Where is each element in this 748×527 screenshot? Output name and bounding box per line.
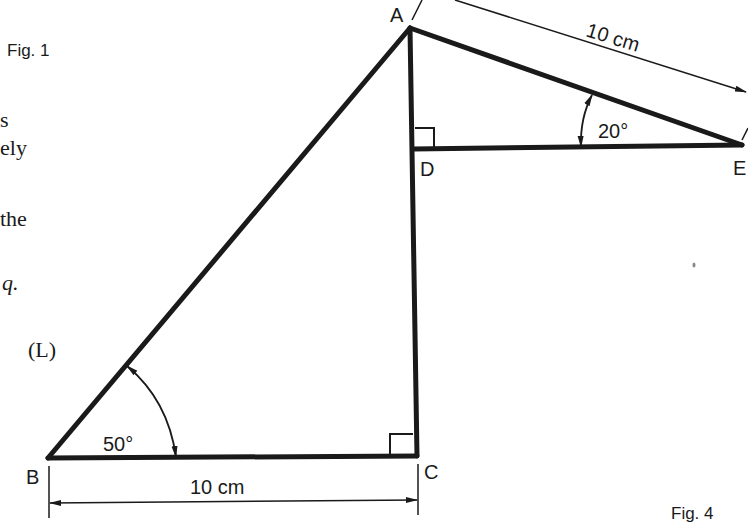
side-ab bbox=[48, 28, 410, 458]
point-label-e: E bbox=[733, 157, 746, 179]
triangle-abc bbox=[48, 28, 417, 458]
fig4-caption: Fig. 4 bbox=[671, 504, 714, 523]
side-ac bbox=[410, 28, 417, 456]
length-label-bc: 10 cm bbox=[190, 476, 244, 498]
side-bc bbox=[48, 456, 417, 458]
label-l: (L) bbox=[28, 337, 56, 362]
margin-fragment: the bbox=[0, 206, 27, 231]
margin-fragment: q. bbox=[2, 270, 19, 295]
angle-label-e: 20° bbox=[598, 120, 628, 142]
triangle-ade bbox=[410, 28, 742, 149]
geometry-diagram: A B C D E 50° 20° 10 cm 10 cm Fig. 1 Fig… bbox=[0, 0, 748, 527]
stray-mark bbox=[693, 263, 696, 268]
side-de bbox=[413, 145, 742, 149]
point-label-d: D bbox=[420, 158, 434, 180]
dimension-ae bbox=[412, 0, 748, 140]
right-angle-c bbox=[390, 434, 413, 455]
point-label-a: A bbox=[390, 4, 404, 26]
angle-arc-b bbox=[127, 366, 176, 457]
margin-fragment: s bbox=[0, 107, 9, 132]
margin-fragment: ely bbox=[0, 135, 27, 160]
angle-label-b: 50° bbox=[103, 433, 133, 455]
angle-arc-e bbox=[581, 95, 592, 147]
side-ae bbox=[410, 28, 742, 145]
point-label-c: C bbox=[424, 461, 438, 483]
point-label-b: B bbox=[26, 466, 39, 488]
fig1-caption: Fig. 1 bbox=[7, 41, 50, 60]
right-angle-d bbox=[415, 128, 434, 148]
